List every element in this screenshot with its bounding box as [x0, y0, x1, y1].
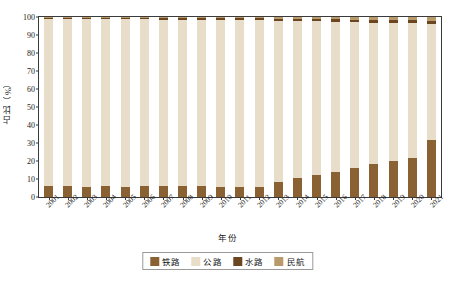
- y-tick-mark: [36, 143, 39, 144]
- y-tick-mark: [36, 71, 39, 72]
- bar-group: [403, 17, 422, 197]
- stacked-bar[interactable]: [389, 17, 398, 197]
- y-tick-label: 60: [9, 85, 39, 94]
- y-tick-label: 20: [9, 157, 39, 166]
- y-tick-label: 0: [9, 193, 39, 202]
- bar-segment: [82, 19, 91, 186]
- legend-item[interactable]: 水路: [233, 255, 264, 267]
- stacked-bar[interactable]: [216, 17, 225, 197]
- legend-label: 公路: [203, 255, 222, 267]
- bar-group: [77, 17, 96, 197]
- bar-segment: [312, 175, 321, 197]
- bar-segment: [63, 19, 72, 186]
- y-tick-mark: [36, 161, 39, 162]
- stacked-bar[interactable]: [312, 17, 321, 197]
- y-tick-label: 10: [9, 175, 39, 184]
- bar-segment: [121, 19, 130, 187]
- stacked-bar[interactable]: [369, 17, 378, 197]
- bar-segment: [293, 21, 302, 178]
- stacked-bar[interactable]: [235, 17, 244, 197]
- y-tick-label: 70: [9, 67, 39, 76]
- bar-group: [39, 17, 58, 197]
- bar-segment: [140, 19, 149, 186]
- y-tick-mark: [36, 179, 39, 180]
- plot-area: 0102030405060708090100: [38, 16, 442, 198]
- bar-group: [326, 17, 345, 197]
- stacked-bar[interactable]: [331, 17, 340, 197]
- chart-legend: 铁路公路水路民航: [142, 252, 313, 270]
- stacked-bar[interactable]: [140, 17, 149, 197]
- stacked-bar[interactable]: [255, 17, 264, 197]
- bar-segment: [255, 20, 264, 187]
- y-tick-mark: [36, 89, 39, 90]
- bar-segment: [274, 21, 283, 183]
- stacked-bar[interactable]: [427, 17, 436, 197]
- legend-label: 民航: [287, 255, 306, 267]
- bar-segment: [312, 21, 321, 175]
- legend-swatch: [150, 257, 159, 266]
- bar-segment: [350, 22, 359, 168]
- bar-segment: [293, 178, 302, 197]
- bar-group: [288, 17, 307, 197]
- stacked-bar[interactable]: [44, 17, 53, 197]
- stacked-bar[interactable]: [274, 17, 283, 197]
- y-tick-mark: [36, 17, 39, 18]
- bar-group: [250, 17, 269, 197]
- stacked-bar[interactable]: [121, 17, 130, 197]
- bar-segment: [369, 164, 378, 197]
- bar-group: [345, 17, 364, 197]
- stacked-bar[interactable]: [178, 17, 187, 197]
- bar-series-container: [39, 17, 441, 197]
- bar-group: [230, 17, 249, 197]
- bar-group: [96, 17, 115, 197]
- legend-item[interactable]: 公路: [191, 255, 222, 267]
- stacked-bar[interactable]: [101, 17, 110, 197]
- legend-label: 铁路: [162, 255, 181, 267]
- bar-segment: [389, 161, 398, 197]
- bar-segment: [408, 158, 417, 197]
- bar-segment: [178, 20, 187, 187]
- stacked-bar[interactable]: [350, 17, 359, 197]
- legend-item[interactable]: 铁路: [150, 255, 181, 267]
- y-tick-mark: [36, 197, 39, 198]
- y-tick-label: 30: [9, 139, 39, 148]
- bar-group: [211, 17, 230, 197]
- bar-segment: [235, 20, 244, 187]
- bar-segment: [427, 24, 436, 140]
- legend-item[interactable]: 民航: [275, 255, 306, 267]
- bar-group: [192, 17, 211, 197]
- stacked-bar[interactable]: [408, 17, 417, 197]
- bar-group: [307, 17, 326, 197]
- stacked-bar[interactable]: [63, 17, 72, 197]
- bar-group: [173, 17, 192, 197]
- bar-segment: [331, 22, 340, 172]
- y-tick-mark: [36, 35, 39, 36]
- y-tick-label: 50: [9, 103, 39, 112]
- y-tick-label: 90: [9, 31, 39, 40]
- legend-swatch: [275, 257, 284, 266]
- bar-segment: [44, 19, 53, 186]
- bar-group: [135, 17, 154, 197]
- bar-group: [154, 17, 173, 197]
- stacked-bar[interactable]: [197, 17, 206, 197]
- stacked-bar-chart-figure: 占比（%） 0102030405060708090100 20012002200…: [0, 0, 455, 282]
- y-tick-mark: [36, 125, 39, 126]
- stacked-bar[interactable]: [82, 17, 91, 197]
- bar-segment: [389, 23, 398, 160]
- bar-group: [269, 17, 288, 197]
- stacked-bar[interactable]: [159, 17, 168, 197]
- bar-group: [422, 17, 441, 197]
- y-tick-label: 100: [9, 13, 39, 22]
- y-tick-mark: [36, 107, 39, 108]
- y-tick-label: 80: [9, 49, 39, 58]
- stacked-bar[interactable]: [293, 17, 302, 197]
- bar-segment: [369, 23, 378, 164]
- bar-group: [58, 17, 77, 197]
- x-axis-title: 年份: [0, 231, 455, 243]
- bar-group: [116, 17, 135, 197]
- bar-segment: [427, 140, 436, 197]
- bar-segment: [101, 19, 110, 186]
- bar-segment: [350, 168, 359, 197]
- bar-segment: [408, 23, 417, 157]
- bar-segment: [331, 172, 340, 197]
